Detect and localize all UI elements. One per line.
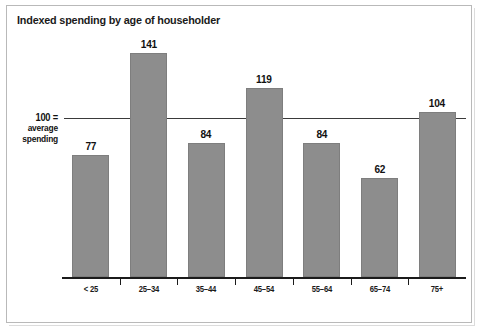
- x-axis-tick: [120, 279, 121, 285]
- bar-value-label: 119: [237, 73, 290, 85]
- reference-label-line-2: average: [12, 123, 59, 134]
- x-axis-label: < 25: [65, 284, 117, 294]
- x-axis-tick: [235, 279, 236, 285]
- bar-value-label: 77: [64, 140, 117, 152]
- figure: Indexed spending by age of householder 1…: [0, 0, 480, 332]
- x-axis-tick: [293, 279, 294, 285]
- x-axis-label: 25–34: [123, 284, 175, 294]
- x-axis-label: 35–44: [180, 284, 232, 294]
- plot-area: 100 = average spending 77141841198462104…: [0, 0, 480, 332]
- bar: [188, 143, 225, 277]
- bar-value-label: 104: [411, 97, 464, 109]
- x-axis-label: 75+: [411, 284, 463, 294]
- bar: [130, 53, 167, 277]
- x-axis-line: [62, 277, 466, 279]
- reference-label-line-3: spending: [12, 134, 59, 145]
- x-axis-tick: [351, 279, 352, 285]
- x-axis-tick: [177, 279, 178, 285]
- bar: [419, 112, 456, 277]
- bar-value-label: 62: [353, 163, 406, 175]
- reference-label-line-1: 100 =: [12, 112, 59, 123]
- bar-value-label: 84: [295, 128, 348, 140]
- x-axis-label: 55–64: [296, 284, 348, 294]
- bar: [72, 155, 109, 277]
- bar: [246, 88, 283, 277]
- bar: [361, 178, 398, 277]
- bar-value-label: 141: [122, 38, 175, 50]
- bar: [303, 143, 340, 277]
- x-axis-label: 45–54: [238, 284, 290, 294]
- bar-value-label: 84: [180, 128, 233, 140]
- x-axis-tick: [408, 279, 409, 285]
- x-axis-label: 65–74: [353, 284, 405, 294]
- reference-line-label: 100 = average spending: [12, 112, 59, 145]
